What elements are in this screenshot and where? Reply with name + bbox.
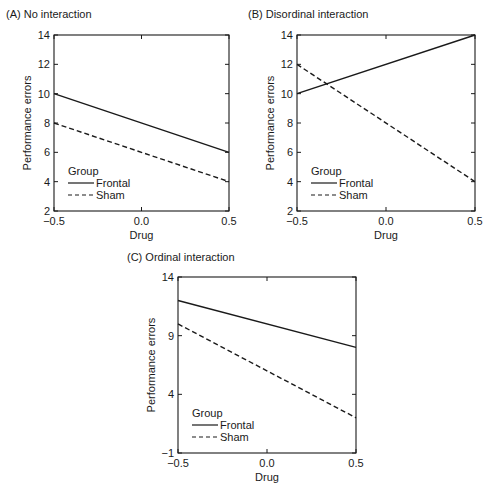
chart-panel-b: 2468101214−0.50.00.5DrugPerformance erro… [264, 29, 483, 241]
y-axis-label: Performance errors [264, 75, 276, 170]
legend-label-sham: Sham [96, 189, 125, 201]
y-tick-label: 4 [287, 176, 293, 188]
chart-panel-a: 2468101214−0.50.00.5DrugPerformance erro… [21, 29, 237, 241]
x-tick-label: 0.5 [221, 215, 236, 227]
y-tick-label: 12 [38, 58, 50, 70]
chart-panel-c: −14914−0.50.00.5DrugPerformance errorsGr… [145, 271, 364, 483]
series-line-frontal [54, 94, 229, 153]
x-tick-label: 0.0 [378, 215, 393, 227]
y-tick-label: 12 [281, 58, 293, 70]
legend-title: Group [192, 407, 223, 419]
x-tick-label: 0.5 [467, 215, 482, 227]
legend-title: Group [68, 165, 99, 177]
y-tick-label: 8 [44, 117, 50, 129]
y-tick-label: 6 [287, 146, 293, 158]
y-tick-label: 9 [168, 330, 174, 342]
legend-label-frontal: Frontal [339, 177, 373, 189]
legend-label-sham: Sham [339, 189, 368, 201]
series-line-sham [178, 324, 356, 418]
series-line-frontal [178, 300, 356, 347]
y-tick-label: 14 [38, 29, 50, 41]
x-tick-label: 0.0 [259, 457, 274, 469]
y-tick-label: 6 [44, 146, 50, 158]
x-tick-label: −0.5 [167, 457, 189, 469]
x-tick-label: 0.0 [134, 215, 149, 227]
y-tick-label: 14 [281, 29, 293, 41]
series-line-frontal [297, 35, 475, 94]
x-axis-label: Drug [255, 471, 279, 483]
y-axis-label: Performance errors [21, 75, 33, 170]
y-tick-label: 4 [44, 176, 50, 188]
y-tick-label: 14 [162, 271, 174, 283]
y-axis-label: Performance errors [145, 317, 157, 412]
x-tick-label: −0.5 [43, 215, 65, 227]
legend-label-frontal: Frontal [96, 177, 130, 189]
x-tick-label: −0.5 [286, 215, 308, 227]
y-tick-label: 10 [281, 88, 293, 100]
legend-label-sham: Sham [220, 431, 249, 443]
legend-title: Group [311, 165, 342, 177]
x-axis-label: Drug [374, 229, 398, 241]
x-tick-label: 0.5 [348, 457, 363, 469]
y-tick-label: 4 [168, 388, 174, 400]
y-tick-label: 10 [38, 88, 50, 100]
plot-frame [178, 277, 356, 453]
legend-label-frontal: Frontal [220, 419, 254, 431]
x-axis-label: Drug [130, 229, 154, 241]
chart-canvas: 2468101214−0.50.00.5DrugPerformance erro… [0, 0, 497, 499]
y-tick-label: 8 [287, 117, 293, 129]
